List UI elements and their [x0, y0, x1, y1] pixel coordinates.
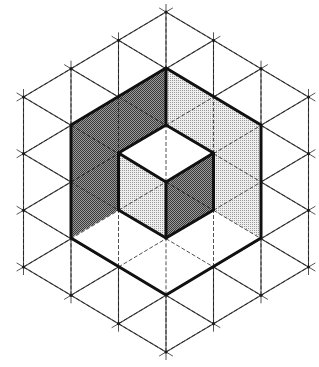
lattice-node — [69, 294, 72, 297]
lattice-node — [117, 39, 120, 42]
lattice-node — [259, 294, 262, 297]
lattice-node — [307, 209, 310, 212]
lattice-node — [164, 350, 167, 353]
lattice-node — [164, 10, 167, 13]
lattice-node — [22, 265, 25, 268]
lattice-node — [22, 209, 25, 212]
lattice-node — [212, 322, 215, 325]
lattice-node — [22, 152, 25, 155]
lattice-node — [259, 67, 262, 70]
lattice-node — [307, 95, 310, 98]
lattice-node — [69, 67, 72, 70]
lattice-node — [212, 39, 215, 42]
lattice-node — [117, 322, 120, 325]
lattice-node — [22, 95, 25, 98]
isometric-grid-diagram — [0, 0, 319, 367]
lattice-node — [307, 265, 310, 268]
lattice-node — [307, 152, 310, 155]
